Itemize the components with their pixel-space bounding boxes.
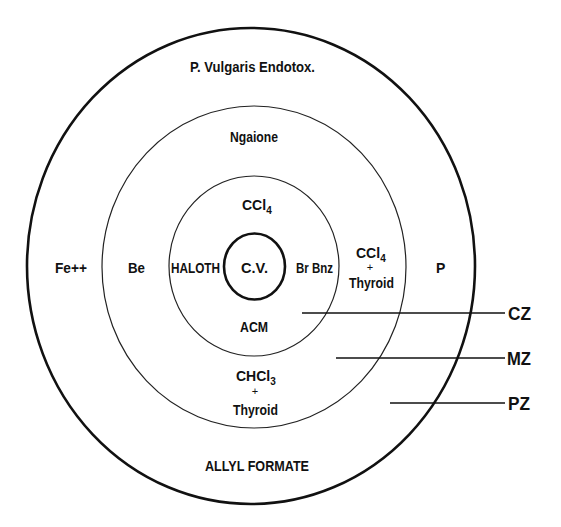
label-haloth: HALOTH [171, 260, 220, 276]
label-chcl3-base: CHCl [236, 368, 270, 384]
label-ccl4-right-base: CCl [356, 245, 380, 261]
label-plus-right: + [367, 261, 373, 273]
zone-label-cz: CZ [508, 303, 531, 324]
label-p: P [436, 260, 445, 276]
label-cv: C.V. [241, 260, 268, 276]
label-acm: ACM [240, 319, 268, 335]
label-fe: Fe++ [55, 260, 87, 276]
label-ccl4-top-base: CCl [242, 197, 266, 213]
label-brbnz: Br Bnz [296, 260, 333, 276]
label-plus-bottom: + [252, 385, 258, 397]
label-ccl4-top-sub: 4 [266, 205, 272, 216]
label-thyroid-bottom: Thyroid [233, 402, 278, 418]
label-be: Be [128, 260, 145, 276]
zone-label-pz: PZ [508, 393, 530, 414]
label-ngaione: Ngaione [230, 129, 278, 145]
liver-zone-diagram: CZ MZ PZ P. Vulgaris Endotox. Ngaione CC… [0, 0, 561, 527]
label-p-vulgaris-endotox: P. Vulgaris Endotox. [190, 59, 315, 75]
label-ccl4-right-sub: 4 [380, 253, 386, 264]
label-allyl-formate: ALLYL FORMATE [205, 458, 309, 474]
label-chcl3-sub: 3 [270, 376, 276, 387]
zone-label-mz: MZ [507, 348, 531, 369]
label-thyroid-right: Thyroid [349, 275, 394, 291]
label-ccl4-top: CCl4 [242, 197, 272, 216]
